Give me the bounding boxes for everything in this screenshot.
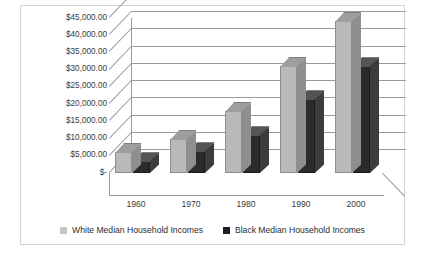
bar-white-1990 bbox=[280, 66, 297, 173]
legend-label-black: Black Median Household Incomes bbox=[235, 225, 365, 235]
y-axis-tick-label: $- bbox=[21, 168, 107, 177]
y-axis-tick-label: $5,000.00 bbox=[21, 150, 107, 159]
bar-side-face bbox=[370, 58, 379, 173]
bar-front-face bbox=[115, 152, 132, 173]
y-axis-tick-label: $40,000.00 bbox=[21, 30, 107, 39]
bar-side-face bbox=[315, 91, 324, 173]
bar-side-face bbox=[260, 127, 269, 173]
bar-front-face bbox=[335, 21, 352, 173]
chart-legend: White Median Household Incomes Black Med… bbox=[21, 221, 404, 239]
x-axis: 19601970198019902000 bbox=[109, 199, 406, 215]
bar-group-1960 bbox=[115, 18, 170, 196]
bar-side-face bbox=[352, 13, 361, 173]
y-axis-tick-label: $15,000.00 bbox=[21, 116, 107, 125]
x-axis-tick-label: 2000 bbox=[333, 199, 379, 209]
bar-group-1970 bbox=[170, 18, 225, 196]
bar-white-1980 bbox=[225, 111, 242, 173]
x-axis-tick-label: 1990 bbox=[278, 199, 324, 209]
bar-white-1970 bbox=[170, 139, 187, 173]
bar-group-1990 bbox=[280, 18, 335, 196]
bar-series-group bbox=[109, 18, 406, 196]
chart-container: $45,000.00$40,000.00$35,000.00$30,000.00… bbox=[20, 5, 405, 245]
y-axis-tick-label: $10,000.00 bbox=[21, 133, 107, 142]
bar-front-face bbox=[280, 66, 297, 173]
legend-label-white: White Median Household Incomes bbox=[72, 225, 203, 235]
y-axis-tick-label: $30,000.00 bbox=[21, 64, 107, 73]
y-axis: $45,000.00$40,000.00$35,000.00$30,000.00… bbox=[21, 6, 109, 206]
y-axis-tick-label: $35,000.00 bbox=[21, 47, 107, 56]
bar-group-1980 bbox=[225, 18, 280, 196]
plot-area bbox=[109, 18, 406, 196]
bar-white-2000 bbox=[335, 21, 352, 173]
bar-group-2000 bbox=[335, 18, 390, 196]
legend-item-black: Black Median Household Incomes bbox=[223, 225, 365, 235]
bar-side-face bbox=[297, 58, 306, 173]
legend-swatch-icon-black bbox=[223, 227, 230, 234]
legend-item-white: White Median Household Incomes bbox=[60, 225, 203, 235]
x-axis-tick-label: 1980 bbox=[223, 199, 269, 209]
bar-front-face bbox=[170, 139, 187, 173]
y-axis-tick-label: $25,000.00 bbox=[21, 81, 107, 90]
bar-white-1960 bbox=[115, 152, 132, 173]
y-axis-tick-label: $20,000.00 bbox=[21, 99, 107, 108]
y-axis-tick-label: $45,000.00 bbox=[21, 13, 107, 22]
legend-swatch-icon-white bbox=[60, 227, 67, 234]
gridline bbox=[131, 11, 406, 12]
x-axis-tick-label: 1960 bbox=[113, 199, 159, 209]
bar-side-face bbox=[242, 103, 251, 173]
x-axis-tick-label: 1970 bbox=[168, 199, 214, 209]
bar-front-face bbox=[225, 111, 242, 173]
